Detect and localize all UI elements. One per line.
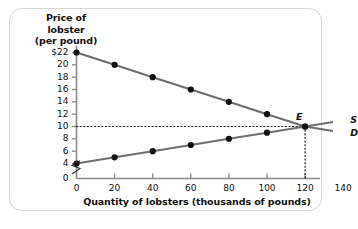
x-tick-label: 20 (103, 184, 127, 193)
y-tick-label: 6 (29, 147, 69, 156)
x-tick-label: 80 (217, 184, 241, 193)
x-tick-label: 60 (179, 184, 203, 193)
curve-label-D: D (350, 127, 358, 138)
x-tick-label: 0 (65, 184, 89, 193)
data-point-D (188, 86, 194, 92)
x-tick-label: 140 (331, 184, 355, 193)
data-point-D (112, 62, 118, 68)
data-point-D (150, 74, 156, 80)
y-tick-label: 20 (29, 60, 69, 69)
data-point-S (226, 136, 232, 142)
x-tick-label: 40 (141, 184, 165, 193)
data-point-D (264, 111, 270, 117)
y-axis-zero-label: 0 (29, 174, 69, 183)
y-tick-label: 18 (29, 73, 69, 82)
y-tick-label: $22 (29, 48, 69, 57)
x-tick-label: 120 (293, 184, 317, 193)
curve-label-S: S (350, 114, 357, 125)
data-point-S (264, 130, 270, 136)
data-point-S (188, 142, 194, 148)
data-point-D (73, 49, 79, 55)
y-tick-label: 14 (29, 97, 69, 106)
y-tick-label: 10 (29, 122, 69, 131)
x-tick-label: 100 (255, 184, 279, 193)
data-point-S (73, 160, 79, 166)
data-point-S (112, 154, 118, 160)
data-point-D (226, 99, 232, 105)
y-tick-label: 16 (29, 85, 69, 94)
y-tick-label: 12 (29, 110, 69, 119)
data-point-S (302, 123, 308, 129)
y-tick-label: 4 (29, 159, 69, 168)
annotation-label-equilibrium: E (296, 111, 303, 122)
data-point-S (150, 148, 156, 154)
y-tick-label: 8 (29, 134, 69, 143)
